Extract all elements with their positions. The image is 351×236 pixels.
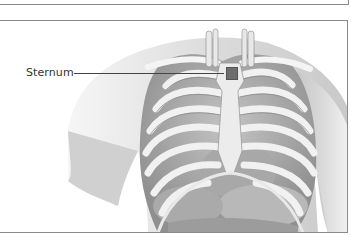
vessel-right-2 [248,31,254,67]
figure-frame: Sternum [0,20,348,233]
sternum-marker [226,67,238,80]
vessel-left [206,31,212,67]
vessel-right [242,29,247,67]
chest-anatomy-illustration [0,21,348,233]
vessel-left-2 [213,29,218,67]
sternum-leader-line [74,73,224,74]
sternum-label: Sternum [26,66,74,79]
top-frame [0,0,349,5]
